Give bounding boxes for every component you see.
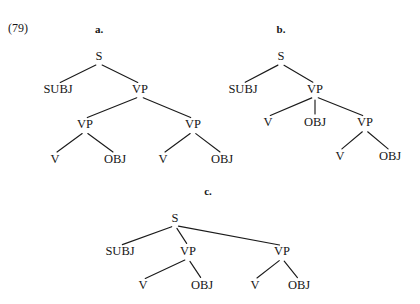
node-label-s: S [172,211,179,225]
node-label-v: V [158,152,167,166]
example-number: (79) [8,21,28,35]
node-label-s: S [278,49,285,63]
node-label-v: V [335,149,344,163]
branch-line [60,65,96,82]
branch-line [57,134,82,152]
node-label-v: V [263,115,272,129]
branch-line [178,226,279,245]
branch-line [145,260,185,278]
branch-line [270,98,311,116]
branch-line [122,227,171,245]
tree-letter-c: c. [204,185,212,197]
node-label-s: S [96,49,103,63]
branch-line [342,132,362,149]
node-label-vp: VP [185,117,201,131]
node-label-obj: OBJ [288,278,310,292]
node-label-vp: VP [132,82,148,96]
branch-line [284,65,313,82]
branch-line [143,98,190,118]
node-label-vp: VP [180,244,196,258]
node-label-v: V [50,152,59,166]
node-label-subj: SUBJ [105,244,134,258]
node-label-subj: SUBJ [43,82,72,96]
node-label-v: V [250,278,259,292]
node-label-v: V [138,278,147,292]
branch-line [257,261,279,278]
tree-letter-a: a. [95,23,104,35]
node-label-obj: OBJ [379,149,401,163]
branch-line [368,132,388,149]
node-label-obj: OBJ [191,278,213,292]
node-label-obj: OBJ [304,115,326,129]
node-label-vp: VP [357,115,373,129]
branch-line [88,134,113,152]
tree-diagram-canvas: SSUBJVPVPVPVOBJVOBJSSUBJVPVOBJVPVOBJSSUB… [0,0,420,304]
branch-line [102,65,138,82]
node-label-vp: VP [77,117,93,131]
branch-line [87,98,136,118]
tree-letter-b: b. [277,23,286,35]
node-label-vp: VP [274,244,290,258]
branch-line [165,134,190,152]
node-label-subj: SUBJ [228,82,257,96]
branch-line [245,65,278,82]
branch-line [284,261,297,277]
branch-line [190,261,201,277]
branch-line [196,134,220,152]
node-label-obj: OBJ [104,152,126,166]
branch-line [318,98,362,116]
node-labels-layer: SSUBJVPVPVPVOBJVOBJSSUBJVPVOBJVPVOBJSSUB… [43,49,401,292]
syntax-tree-figure: SSUBJVPVPVPVOBJVOBJSSUBJVPVOBJVPVOBJSSUB… [0,0,420,304]
tree-letter-labels-layer: a.b.c. [95,23,286,197]
node-label-obj: OBJ [211,152,233,166]
node-label-vp: VP [307,82,323,96]
branch-line [177,228,187,243]
